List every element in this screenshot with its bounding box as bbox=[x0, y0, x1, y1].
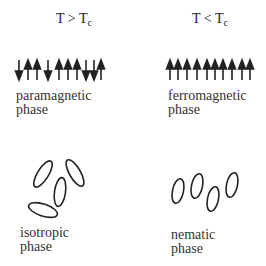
ferromagnetic-spin-row bbox=[167, 60, 254, 80]
spin-up-icon bbox=[175, 60, 182, 80]
spin-up-icon bbox=[56, 60, 63, 80]
spin-up-icon bbox=[194, 60, 201, 80]
isotropic-molecules bbox=[27, 157, 87, 220]
spin-up-icon bbox=[167, 60, 174, 80]
label-ferromagnetic-line2: phase bbox=[168, 103, 247, 117]
molecule-ellipse-icon bbox=[224, 172, 240, 199]
spin-up-icon bbox=[65, 60, 72, 80]
spin-up-icon bbox=[34, 60, 41, 80]
molecule-ellipse-icon bbox=[30, 158, 55, 189]
spin-up-icon bbox=[239, 60, 246, 80]
label-ferromagnetic-line1: ferromagnetic bbox=[168, 89, 247, 103]
molecule-ellipse-icon bbox=[205, 186, 221, 213]
spin-up-icon bbox=[212, 60, 219, 80]
spin-down-icon bbox=[45, 60, 52, 80]
label-ferromagnetic: ferromagnetic phase bbox=[168, 89, 247, 117]
nematic-molecules bbox=[170, 172, 240, 213]
label-nematic-line1: nematic bbox=[171, 228, 215, 242]
molecule-ellipse-icon bbox=[189, 173, 205, 200]
label-isotropic-line1: isotropic bbox=[20, 226, 69, 240]
spin-up-icon bbox=[247, 60, 254, 80]
label-paramagnetic: paramagnetic phase bbox=[16, 89, 91, 117]
spin-up-icon bbox=[204, 60, 211, 80]
spin-up-icon bbox=[184, 60, 191, 80]
spin-up-icon bbox=[220, 60, 227, 80]
spin-up-icon bbox=[25, 60, 32, 80]
label-isotropic: isotropic phase bbox=[20, 226, 69, 254]
label-nematic-line2: phase bbox=[171, 242, 215, 256]
spin-up-icon bbox=[98, 60, 105, 80]
spin-down-icon bbox=[83, 60, 90, 80]
molecule-ellipse-icon bbox=[63, 157, 88, 188]
label-isotropic-line2: phase bbox=[20, 240, 69, 254]
spin-up-icon bbox=[74, 60, 81, 80]
spin-up-icon bbox=[229, 60, 236, 80]
molecule-ellipse-icon bbox=[170, 178, 186, 205]
label-paramagnetic-line1: paramagnetic bbox=[16, 89, 91, 103]
label-paramagnetic-line2: phase bbox=[16, 103, 91, 117]
label-nematic: nematic phase bbox=[171, 228, 215, 256]
paramagnetic-spin-row bbox=[16, 60, 105, 80]
spin-down-icon bbox=[16, 60, 23, 80]
spin-down-icon bbox=[91, 60, 98, 80]
molecule-ellipse-icon bbox=[53, 177, 68, 207]
